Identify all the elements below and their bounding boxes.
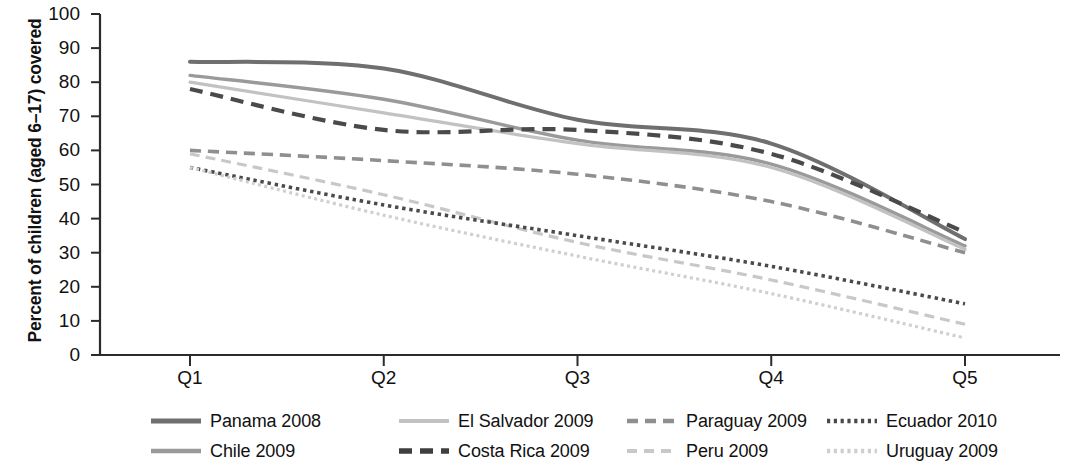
series-line-costa-rica-2009 [190,89,965,232]
y-tick-label: 20 [34,277,80,296]
legend-label-el-salvador: El Salvador 2009 [458,411,594,432]
x-tick-label: Q5 [935,368,995,387]
y-tick-label: 0 [34,345,80,364]
x-tick-label: Q2 [354,368,414,387]
solid-dark-line-icon [150,414,202,428]
legend-item-uruguay[interactable]: Uruguay 2009 [826,441,1036,462]
y-tick-label: 30 [34,243,80,262]
solid-light-line-icon [398,414,450,428]
legend-item-paraguay[interactable]: Paraguay 2009 [626,411,826,432]
x-tick-label: Q1 [160,368,220,387]
legend-item-chile[interactable]: Chile 2009 [150,441,398,462]
legend-item-panama[interactable]: Panama 2008 [150,411,398,432]
line-chart: Percent of children (aged 6–17) covered … [0,0,1067,468]
y-axis-ticks [91,14,100,355]
data-series-layer [190,62,965,338]
series-line-paraguay-2009 [190,150,965,252]
legend-label-uruguay: Uruguay 2009 [886,441,998,462]
y-tick-label: 90 [34,38,80,57]
y-tick-label: 50 [34,175,80,194]
dashed-light-line-icon [626,444,678,458]
axis-lines [100,14,1060,355]
series-line-el-salvador-2009 [190,82,965,249]
y-tick-label: 80 [34,72,80,91]
y-tick-label: 70 [34,106,80,125]
legend-item-ecuador[interactable]: Ecuador 2010 [826,411,1036,432]
plot-area: 1009080706050403020100 Q1Q2Q3Q4Q5 [0,0,1067,400]
legend-label-paraguay: Paraguay 2009 [686,411,807,432]
legend-label-peru: Peru 2009 [686,441,768,462]
series-line-peru-2009 [190,154,965,325]
legend-label-ecuador: Ecuador 2010 [886,411,997,432]
solid-medium-line-icon [150,444,202,458]
y-tick-label: 10 [34,311,80,330]
legend-label-panama: Panama 2008 [210,411,321,432]
series-line-ecuador-2010 [190,167,965,303]
dashed-dark-line-icon [398,444,450,458]
y-tick-label: 60 [34,140,80,159]
plot-svg [0,0,1067,400]
x-tick-label: Q4 [741,368,801,387]
x-tick-label: Q3 [548,368,608,387]
legend-item-costa-rica[interactable]: Costa Rica 2009 [398,441,626,462]
legend-item-el-salvador[interactable]: El Salvador 2009 [398,411,626,432]
y-tick-label: 40 [34,209,80,228]
legend-item-peru[interactable]: Peru 2009 [626,441,826,462]
dashed-medium-line-icon [626,414,678,428]
dotted-dark-line-icon [826,414,878,428]
x-axis-ticks [190,355,965,366]
legend-label-costa-rica: Costa Rica 2009 [458,441,590,462]
y-tick-label: 100 [34,4,80,23]
chart-legend: Panama 2008 El Salvador 2009 Paraguay 20… [150,406,1050,466]
legend-label-chile: Chile 2009 [210,441,295,462]
dotted-light-line-icon [826,444,878,458]
